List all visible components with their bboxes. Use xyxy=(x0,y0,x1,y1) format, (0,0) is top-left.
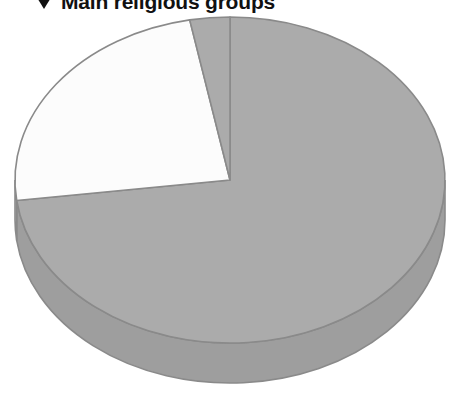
pie-chart xyxy=(0,0,462,406)
screenshot-root: Main religious groups xyxy=(0,0,462,406)
pie-chart-svg xyxy=(0,0,462,406)
pie-top-faces xyxy=(15,17,445,343)
